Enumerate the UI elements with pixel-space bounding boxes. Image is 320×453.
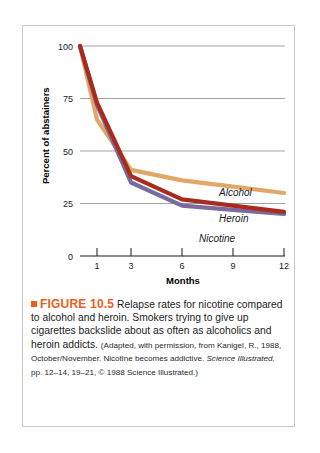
x-tick-label-1: 1: [94, 261, 99, 271]
figure-square-marker: [31, 301, 37, 307]
figure-card: 100 75 50 25 0 Percent of abstainers 1 3…: [22, 25, 295, 427]
x-axis-title: Months: [166, 275, 200, 286]
data-series-group: [80, 46, 284, 214]
y-tick-label-50: 50: [63, 147, 73, 157]
source-journal-name: Science Illustrated,: [206, 354, 274, 363]
caption-main-text: FIGURE 10.5 Relapse rates for nicotine c…: [31, 298, 287, 378]
x-tick-label-9: 9: [230, 261, 235, 271]
figure-caption: FIGURE 10.5 Relapse rates for nicotine c…: [31, 298, 287, 378]
x-tick-label-12: 12: [279, 261, 289, 271]
relapse-rate-line-chart: 100 75 50 25 0 Percent of abstainers 1 3…: [23, 26, 294, 296]
y-axis-title: Percent of abstainers: [40, 87, 51, 184]
y-tick-label-25: 25: [63, 199, 73, 209]
figure-number-label: FIGURE 10.5: [40, 297, 114, 311]
series-line-alcohol: [80, 46, 284, 193]
series-label-nicotine: Nicotine: [199, 233, 236, 244]
y-tick-label-0: 0: [68, 252, 73, 262]
source-part-2: pp. 12–14, 19–21, © 1988 Science Illustr…: [31, 368, 198, 377]
x-axis-ticks: [97, 248, 284, 256]
chart-region: 100 75 50 25 0 Percent of abstainers 1 3…: [23, 26, 294, 296]
series-label-heroin: Heroin: [219, 213, 249, 224]
y-tick-label-100: 100: [58, 42, 73, 52]
x-tick-label-6: 6: [179, 261, 184, 271]
series-label-alcohol: Alcohol: [218, 187, 253, 198]
series-line-heroin: [80, 46, 284, 212]
y-tick-label-75: 75: [63, 94, 73, 104]
x-tick-label-3: 3: [128, 261, 133, 271]
